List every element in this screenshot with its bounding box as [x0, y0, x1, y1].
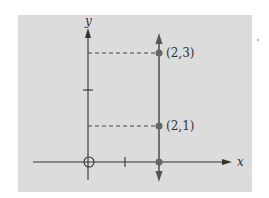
label-2-3: (2,3) [166, 46, 194, 60]
speck [257, 39, 259, 41]
point-2-3 [156, 50, 163, 57]
point-2-0 [156, 159, 163, 166]
label-2-1: (2,1) [166, 119, 194, 133]
y-axis-label: y [84, 14, 92, 28]
point-2-1 [156, 123, 163, 130]
coordinate-diagram: x y (2,3) (2,1) [0, 0, 269, 198]
x-axis-label: x [237, 155, 244, 169]
figure-panel [18, 15, 252, 192]
